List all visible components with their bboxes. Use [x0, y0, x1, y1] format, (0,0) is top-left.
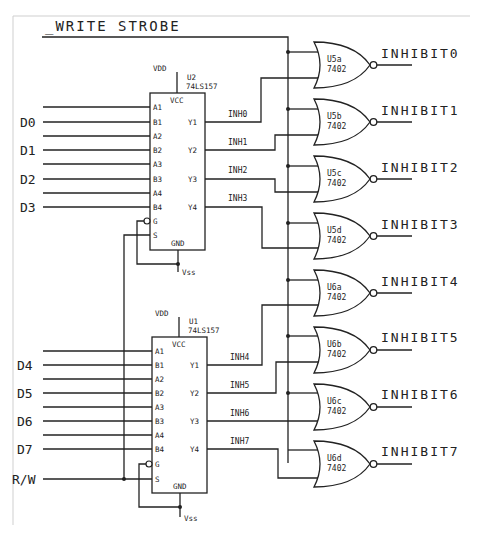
- svg-text:A1: A1: [155, 347, 164, 356]
- svg-text:D7: D7: [17, 442, 33, 457]
- svg-text:G: G: [155, 460, 160, 469]
- svg-text:74LS157: 74LS157: [188, 326, 220, 335]
- svg-text:Vss: Vss: [184, 514, 198, 523]
- inh-net-labels: INH0 INH1 INH2 INH3 INH4 INH5 INH6 INH7: [228, 110, 249, 446]
- inhibit-label: INHIBIT1: [381, 103, 460, 118]
- data-input-labels: D0 D1 D2 D3 D4 D5 D6 D7 R/W: [12, 115, 36, 487]
- svg-text:VCC: VCC: [172, 340, 186, 349]
- gate-part: 7402: [327, 122, 346, 131]
- svg-text:B3: B3: [155, 417, 164, 426]
- svg-text:S: S: [155, 475, 160, 484]
- gate-part: 7402: [327, 293, 346, 302]
- svg-text:INH3: INH3: [228, 194, 247, 203]
- svg-text:VCC: VCC: [170, 96, 184, 105]
- gate-part: 7402: [327, 236, 346, 245]
- svg-text:INH1: INH1: [228, 138, 247, 147]
- gate-part: 7402: [327, 179, 346, 188]
- write-strobe-label: _WRITE STROBE: [45, 18, 181, 35]
- svg-text:D4: D4: [17, 358, 33, 373]
- gate-ref: U6d: [327, 454, 342, 463]
- svg-text:INH0: INH0: [228, 110, 247, 119]
- svg-text:74LS157: 74LS157: [186, 82, 218, 91]
- junctions: [122, 50, 290, 509]
- svg-text:B2: B2: [153, 146, 162, 155]
- svg-text:U2: U2: [187, 73, 196, 82]
- u2-labels: VDD U2 74LS157 VCC A1 B1 A2 B2 A3 B3 A4 …: [153, 64, 218, 277]
- svg-text:INH7: INH7: [230, 437, 249, 446]
- gate-ref: U5c: [327, 169, 342, 178]
- gate-ref: U5d: [327, 226, 342, 235]
- inhibit-labels: INHIBIT0 INHIBIT1 INHIBIT2 INHIBIT3 INHI…: [381, 46, 460, 459]
- svg-text:B4: B4: [153, 203, 163, 212]
- gate-part: 7402: [327, 407, 346, 416]
- gate-part: 7402: [327, 350, 346, 359]
- svg-text:VDD: VDD: [153, 64, 167, 73]
- svg-text:D0: D0: [20, 115, 36, 130]
- enable-bubbles: [144, 218, 152, 467]
- svg-text:Y2: Y2: [190, 389, 199, 398]
- svg-text:S: S: [153, 231, 158, 240]
- svg-text:D3: D3: [20, 200, 36, 215]
- u1-labels: VDD U1 74LS157 VCC A1 B1 A2 B2 A3 B3 A4 …: [155, 309, 220, 523]
- gate-part: 7402: [327, 65, 346, 74]
- schematic-canvas: _WRITE STROBE: [0, 0, 477, 539]
- gate-ref: U5a: [327, 55, 342, 64]
- inhibit-label: INHIBIT5: [381, 330, 460, 345]
- u2-box: [150, 93, 205, 250]
- gate-ref: U6c: [327, 397, 342, 406]
- svg-text:Y3: Y3: [188, 175, 197, 184]
- svg-text:B3: B3: [153, 175, 162, 184]
- svg-text:D6: D6: [17, 414, 33, 429]
- svg-text:Y1: Y1: [190, 361, 199, 370]
- inhibit-label: INHIBIT0: [381, 46, 460, 61]
- gate-ref: U6b: [327, 340, 342, 349]
- svg-text:A2: A2: [155, 375, 164, 384]
- svg-text:GND: GND: [171, 239, 185, 248]
- wires: [42, 37, 319, 517]
- inhibit-label: INHIBIT4: [381, 274, 460, 289]
- svg-text:INH5: INH5: [230, 381, 249, 390]
- svg-text:INH2: INH2: [228, 166, 247, 175]
- svg-text:B2: B2: [155, 389, 164, 398]
- svg-text:B4: B4: [155, 445, 165, 454]
- svg-text:Y4: Y4: [190, 445, 200, 454]
- schematic-svg: _WRITE STROBE: [0, 0, 477, 539]
- inhibit-label: INHIBIT6: [381, 387, 460, 402]
- gate-ref: U5b: [327, 112, 342, 121]
- svg-text:D2: D2: [20, 172, 36, 187]
- svg-text:VDD: VDD: [155, 309, 169, 318]
- inhibit-label: INHIBIT3: [381, 217, 460, 232]
- svg-text:A2: A2: [153, 132, 162, 141]
- svg-text:A3: A3: [153, 160, 162, 169]
- svg-text:B1: B1: [153, 118, 162, 127]
- svg-text:Y1: Y1: [188, 118, 197, 127]
- svg-text:Y2: Y2: [188, 146, 197, 155]
- svg-text:A3: A3: [155, 403, 164, 412]
- svg-text:INH6: INH6: [230, 409, 249, 418]
- inhibit-label: INHIBIT2: [381, 160, 460, 175]
- svg-text:A4: A4: [153, 189, 163, 198]
- gate-part: 7402: [327, 464, 346, 473]
- inhibit-label: INHIBIT7: [381, 444, 460, 459]
- svg-text:U1: U1: [189, 317, 198, 326]
- svg-text:D5: D5: [17, 386, 33, 401]
- svg-text:A4: A4: [155, 431, 165, 440]
- svg-text:INH4: INH4: [230, 353, 249, 362]
- svg-text:GND: GND: [173, 482, 187, 491]
- svg-text:G: G: [153, 217, 158, 226]
- svg-text:B1: B1: [155, 361, 164, 370]
- svg-text:A1: A1: [153, 103, 162, 112]
- svg-text:Y3: Y3: [190, 417, 199, 426]
- svg-text:D1: D1: [20, 143, 36, 158]
- svg-text:Y4: Y4: [188, 203, 198, 212]
- svg-text:Vss: Vss: [182, 268, 196, 277]
- gate-ref: U6a: [327, 283, 342, 292]
- rw-label: R/W: [12, 472, 36, 487]
